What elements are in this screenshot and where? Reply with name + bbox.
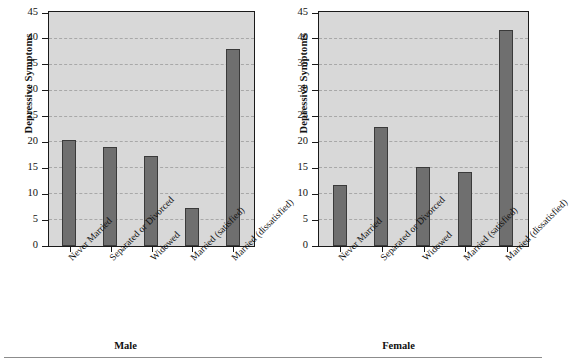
y-axis-tick-label: 15: [4, 161, 38, 172]
y-axis-tick: [42, 116, 48, 117]
y-axis-tick-label: 40: [4, 31, 38, 42]
y-axis-tick: [42, 168, 48, 169]
y-axis-tick: [42, 220, 48, 221]
bar: [333, 185, 347, 246]
panel-label-male: Male: [22, 340, 229, 351]
y-axis-tick-label: 25: [4, 109, 38, 120]
gridline: [319, 141, 528, 142]
y-axis-tick: [42, 38, 48, 39]
y-axis-tick-label: 45: [274, 6, 308, 17]
bottom-divider-rule: [4, 357, 542, 358]
y-axis-tick-label: 5: [4, 213, 38, 224]
y-axis-tick: [312, 194, 318, 195]
y-axis-tick: [312, 246, 318, 247]
y-axis-tick-label: 35: [274, 57, 308, 68]
y-axis-tick: [42, 246, 48, 247]
y-axis-tick: [312, 64, 318, 65]
y-axis-tick-label: 25: [274, 109, 308, 120]
y-axis-tick: [42, 13, 48, 14]
bar: [62, 140, 76, 246]
y-axis-tick-label: 10: [4, 187, 38, 198]
gridline: [319, 90, 528, 91]
y-axis-tick-label: 30: [274, 83, 308, 94]
y-axis-tick-label: 0: [274, 239, 308, 250]
y-axis-tick: [312, 90, 318, 91]
gridline: [319, 64, 528, 65]
y-axis-tick: [312, 168, 318, 169]
gridline: [49, 116, 254, 117]
y-axis-tick: [312, 38, 318, 39]
y-axis-tick: [42, 142, 48, 143]
y-axis-tick-label: 20: [4, 135, 38, 146]
chart-panel-male: Depressive Symptoms Male 051015202530354…: [0, 0, 273, 364]
gridline: [49, 141, 254, 142]
y-axis-tick-label: 35: [4, 57, 38, 68]
gridline: [49, 90, 254, 91]
y-axis-tick-label: 20: [274, 135, 308, 146]
y-axis-tick: [312, 116, 318, 117]
y-axis-tick: [312, 142, 318, 143]
y-axis-tick: [42, 194, 48, 195]
y-axis-tick-label: 10: [274, 187, 308, 198]
y-axis-tick: [42, 64, 48, 65]
bar: [458, 172, 472, 246]
bar: [144, 156, 158, 246]
chart-panel-female: Depressive Symptoms Female 0510152025303…: [273, 0, 546, 364]
y-axis-tick-label: 15: [274, 161, 308, 172]
gridline: [49, 64, 254, 65]
y-axis-tick-label: 0: [4, 239, 38, 250]
y-axis-tick: [312, 13, 318, 14]
y-axis-tick-label: 5: [274, 213, 308, 224]
bar: [185, 208, 199, 246]
y-axis-tick: [42, 90, 48, 91]
y-axis-tick-label: 30: [4, 83, 38, 94]
panel-label-female: Female: [293, 340, 504, 351]
gridline: [319, 38, 528, 39]
y-axis-tick-label: 45: [4, 6, 38, 17]
gridline: [319, 116, 528, 117]
y-axis-tick-label: 40: [274, 31, 308, 42]
gridline: [49, 38, 254, 39]
y-axis-tick: [312, 220, 318, 221]
